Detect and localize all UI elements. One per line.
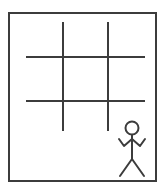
- outer-frame: [9, 13, 156, 181]
- stick-figure: [119, 122, 145, 177]
- stick-figure-right-leg: [132, 159, 144, 176]
- drawing-canvas: A drawing of an empty tic-tac-toe board …: [0, 0, 165, 194]
- grid-vertical-lines: [63, 22, 108, 131]
- stick-figure-head-icon: [126, 122, 139, 135]
- stick-figure-left-leg: [120, 159, 132, 176]
- tic-tac-toe-drawing: [0, 0, 165, 194]
- grid-horizontal-lines: [26, 57, 145, 101]
